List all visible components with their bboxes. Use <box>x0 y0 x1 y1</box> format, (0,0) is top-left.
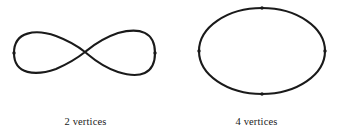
ellipse-vertex-marker <box>197 49 200 52</box>
figure-canvas <box>0 0 342 134</box>
ellipse-vertex-marker <box>323 49 326 52</box>
caption-ellipse: 4 vertices <box>171 117 342 128</box>
figure-eight-curve <box>14 31 155 75</box>
lemniscate-vertex-marker <box>12 51 15 54</box>
ellipse-vertex-marker <box>260 6 263 9</box>
ellipse-vertex-marker <box>260 92 263 95</box>
ellipse-curve <box>199 8 325 94</box>
lemniscate-vertex-marker <box>153 51 156 54</box>
ellipse-panel <box>197 6 326 95</box>
caption-lemniscate: 2 vertices <box>0 117 171 128</box>
ellipse-vertex-group <box>197 6 326 95</box>
figure-container: 2 vertices 4 vertices <box>0 0 342 134</box>
lemniscate-panel <box>12 31 156 75</box>
